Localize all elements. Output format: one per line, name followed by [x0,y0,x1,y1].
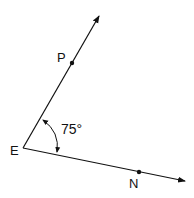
angle-arc [43,120,57,152]
label-p: P [57,50,66,65]
angle-label: 75° [61,121,82,137]
angle-diagram: P N E 75° [0,0,194,198]
label-e: E [10,143,19,158]
point-p [70,61,74,65]
point-n [137,170,141,174]
ray-en [23,148,185,181]
label-n: N [129,176,138,191]
